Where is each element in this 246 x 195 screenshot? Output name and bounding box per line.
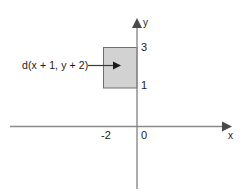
y-tick-label-1: 1 bbox=[141, 80, 147, 91]
rectangle-annotation-label: d(x + 1, y + 2) bbox=[22, 60, 88, 71]
origin-label-0: 0 bbox=[141, 130, 147, 141]
coordinate-diagram bbox=[0, 0, 246, 195]
x-axis-name: x bbox=[228, 131, 233, 141]
y-axis-arrowhead bbox=[132, 18, 142, 28]
shaded-rectangle bbox=[104, 48, 138, 89]
y-tick-label-3: 3 bbox=[141, 42, 147, 53]
x-tick-label-minus-2: -2 bbox=[101, 130, 111, 141]
y-axis-name: y bbox=[143, 18, 148, 28]
figure-canvas: d(x + 1, y + 2) 3 1 -2 0 y x bbox=[0, 0, 246, 195]
